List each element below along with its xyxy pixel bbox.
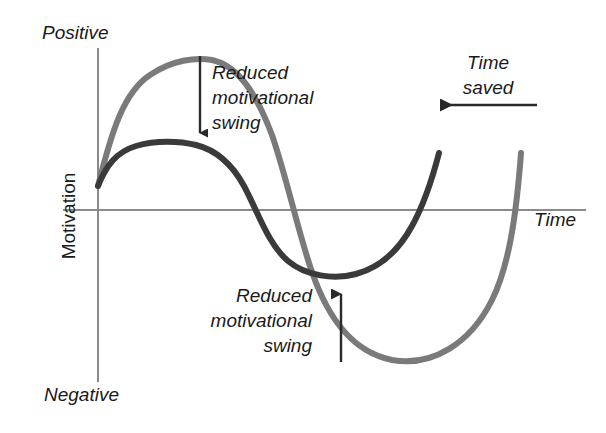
motivation-curve-diagram: Positive Negative Time Motivation Reduce… [0, 0, 606, 433]
annotation-top-line-2: motivational [212, 85, 313, 110]
x-axis-title: Time [534, 209, 576, 231]
y-axis-title: Motivation [58, 146, 80, 286]
annotation-top-line-1: Reduced [212, 60, 313, 85]
annotation-time-saved-line-1: Time [438, 50, 538, 75]
annotation-top-line-3: swing [212, 110, 313, 135]
y-axis-positive-label: Positive [42, 22, 109, 44]
annotation-time-saved-line-2: saved [438, 75, 538, 100]
annotation-bottom-line-1: Reduced [160, 283, 312, 308]
y-axis-negative-label: Negative [44, 384, 119, 406]
annotation-reduced-motivational-swing-top: Reduced motivational swing [212, 60, 313, 135]
annotation-bottom-line-3: swing [160, 333, 312, 358]
annotation-reduced-motivational-swing-bottom: Reduced motivational swing [160, 283, 312, 358]
annotation-time-saved: Time saved [438, 50, 538, 100]
annotation-bottom-line-2: motivational [160, 308, 312, 333]
